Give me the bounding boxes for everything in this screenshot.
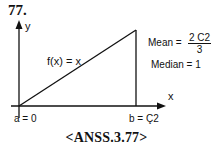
function-label: f(x) = x bbox=[47, 55, 81, 67]
y-axis-arrow-icon bbox=[16, 20, 23, 29]
median-label: Median = 1 bbox=[151, 59, 201, 70]
x-axis-label: x bbox=[168, 90, 174, 102]
caption: <ANSS.3.77> bbox=[0, 130, 213, 146]
a-label: a = 0 bbox=[14, 113, 37, 124]
mean-numerator: 2 C2 bbox=[188, 32, 211, 44]
x-axis-arrow-icon bbox=[157, 103, 166, 110]
y-axis-label: y bbox=[25, 20, 31, 32]
b-label: b = Ç2 bbox=[129, 113, 159, 124]
mean-label: Mean = bbox=[148, 37, 182, 48]
mean-denominator: 3 bbox=[188, 44, 211, 55]
mean-fraction: 2 C2 3 bbox=[188, 32, 211, 55]
function-line bbox=[19, 30, 136, 106]
